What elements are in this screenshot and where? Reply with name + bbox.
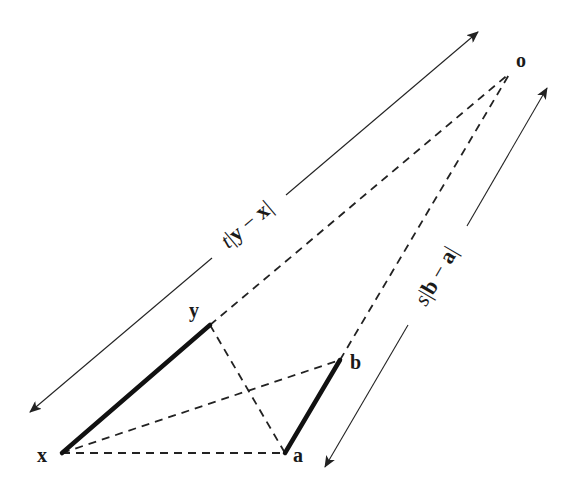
- label-s-length: s|b − a|: [409, 242, 463, 310]
- dashed-line-y-o: [210, 73, 510, 325]
- arrow-line-upper: [467, 88, 547, 226]
- point-label-y: y: [189, 299, 199, 322]
- point-label-b: b: [350, 351, 361, 373]
- arrow-line-lower: [30, 258, 212, 412]
- arrow-line-upper: [286, 32, 478, 195]
- dashed-line-x-b: [62, 360, 340, 453]
- point-label-o: o: [516, 49, 526, 71]
- dimension-arrow-s: s|b − a|: [325, 88, 547, 467]
- dashed-line-y-a: [210, 325, 285, 453]
- point-label-x: x: [37, 444, 47, 466]
- arrow-line-lower: [325, 325, 408, 467]
- dashed-line-b-o: [340, 73, 510, 360]
- segment-x-y: [62, 325, 210, 453]
- geometry-diagram: t|y − x| s|b − a| o x y a b: [0, 0, 575, 487]
- point-label-a: a: [293, 444, 303, 466]
- segment-a-b: [285, 360, 340, 453]
- label-t-length: t|y − x|: [215, 195, 277, 253]
- dimension-arrow-t: t|y − x|: [30, 32, 478, 412]
